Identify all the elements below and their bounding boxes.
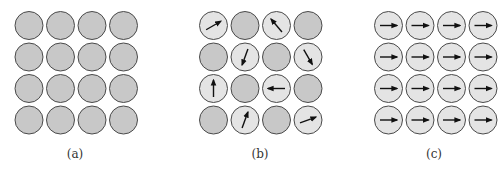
atom: [47, 106, 75, 134]
atom: [110, 12, 138, 40]
atom: [78, 43, 106, 71]
atom: [47, 75, 75, 103]
atom-grid-c: [340, 0, 499, 145]
panel-label-b: (b): [230, 147, 290, 161]
atom: [263, 43, 291, 71]
atom: [15, 106, 43, 134]
atom: [263, 106, 291, 134]
atom: [78, 106, 106, 134]
atom: [78, 12, 106, 40]
atom: [110, 75, 138, 103]
panel-label-c: (c): [404, 147, 464, 161]
atom-grid-b: [170, 0, 340, 145]
panel-label-a: (a): [45, 147, 105, 161]
atom: [15, 75, 43, 103]
atom-grid-a: [0, 0, 170, 145]
atom: [200, 106, 228, 134]
atom: [47, 12, 75, 40]
atom: [231, 75, 259, 103]
atom: [78, 75, 106, 103]
atom: [294, 12, 322, 40]
atom: [110, 43, 138, 71]
atom: [15, 43, 43, 71]
panel-c: [340, 0, 499, 145]
atom: [15, 12, 43, 40]
atom: [47, 43, 75, 71]
atom: [231, 12, 259, 40]
atom: [294, 75, 322, 103]
atom: [200, 43, 228, 71]
panel-b: [170, 0, 340, 145]
panel-a: [0, 0, 170, 145]
atom: [110, 106, 138, 134]
